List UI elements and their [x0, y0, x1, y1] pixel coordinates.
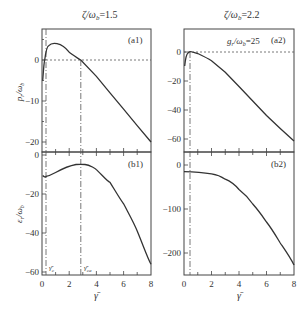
b1-ytick-m20: −20 — [25, 189, 40, 199]
ylabel-a1: pr/ωb — [14, 83, 25, 103]
a2-ytick-0: 0 — [177, 47, 182, 57]
a1-ytick-0: 0 — [35, 55, 40, 65]
xlabel-right: γ̄ — [237, 290, 244, 301]
b1-ytick-m40: −40 — [25, 228, 40, 238]
a2-ytick-m60: −60 — [167, 134, 182, 144]
right-xtick-4: 4 — [237, 279, 242, 289]
panel-b2-frame — [184, 152, 294, 275]
a1-ytick-m20: −20 — [25, 137, 40, 147]
left-xtick-8: 8 — [149, 279, 154, 289]
curve-b2 — [184, 172, 294, 265]
panel-label-b1: (b1) — [128, 159, 143, 169]
left-xtick-4: 4 — [94, 279, 99, 289]
panel-label-a2: (a2) — [271, 35, 286, 45]
panel-a1-frame — [42, 29, 151, 152]
curve-a1 — [43, 43, 151, 142]
a2-ytick-m20: −20 — [167, 76, 182, 86]
right-xtick-8: 8 — [292, 279, 297, 289]
right-xtick-0: 0 — [182, 279, 187, 289]
a1-ytick-m10: −10 — [25, 96, 40, 106]
y-ticks-b1 — [42, 155, 46, 272]
b1-ytick-0: 0 — [35, 150, 40, 160]
b2-ytick-m200: −200 — [162, 248, 181, 258]
b1-ytick-m60: −60 — [25, 267, 40, 277]
panel-label-b2: (b2) — [271, 159, 286, 169]
right-xtick-2: 2 — [209, 279, 214, 289]
a2-ytick-m40: −40 — [167, 105, 182, 115]
panel-a2-frame — [184, 29, 294, 152]
curve-a2 — [185, 52, 294, 141]
y-ticks-b2 — [184, 165, 188, 253]
left-xtick-0: 0 — [40, 279, 45, 289]
curve-b1 — [43, 164, 151, 264]
figure: ζ/ωb=1.5 0 −10 −20 0 −20 −40 −60 pr/ωb ε… — [0, 0, 307, 315]
right-xtick-6: 6 — [264, 279, 269, 289]
title-left: ζ/ωb=1.5 — [82, 9, 118, 22]
x-ticks-right — [198, 148, 281, 275]
b2-ytick-m100: −100 — [162, 204, 181, 214]
g-annotation: gr/ωb=25 — [227, 36, 260, 47]
gamma-ca-label: γ̄ca — [84, 264, 92, 273]
left-xtick-6: 6 — [121, 279, 126, 289]
title-right: ζ/ωb=2.2 — [224, 9, 260, 22]
ylabel-b1: εr/ωb — [14, 205, 25, 223]
left-xtick-2: 2 — [67, 279, 72, 289]
xlabel-left: γ̄ — [94, 290, 101, 301]
b2-ytick-0: 0 — [177, 160, 182, 170]
gamma-c-label: γ̄c — [49, 264, 55, 273]
panel-label-a1: (a1) — [128, 35, 143, 45]
